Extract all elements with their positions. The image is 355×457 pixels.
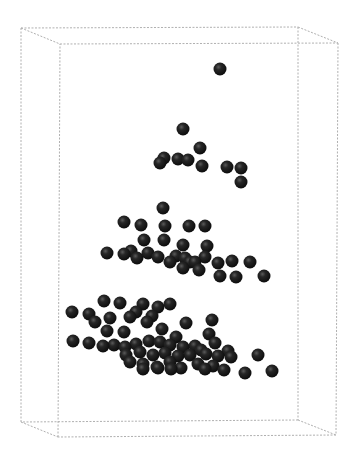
- data-point-sphere: [66, 306, 79, 319]
- data-point-sphere: [244, 256, 257, 269]
- data-point-sphere: [135, 219, 148, 232]
- data-point-sphere: [177, 239, 190, 252]
- data-point-sphere: [108, 339, 121, 352]
- data-point-sphere: [226, 255, 239, 268]
- data-point-sphere: [230, 271, 243, 284]
- box-edge-depth: [21, 422, 58, 437]
- box-edge-front: [58, 435, 336, 437]
- data-point-sphere: [221, 161, 234, 174]
- wireframe-box: [21, 27, 338, 437]
- data-point-sphere: [154, 157, 167, 170]
- data-point-sphere: [143, 335, 156, 348]
- data-point-sphere: [147, 349, 160, 362]
- data-point-sphere: [152, 362, 165, 375]
- box-edge-back: [21, 420, 298, 422]
- data-point-sphere: [239, 367, 252, 380]
- data-point-sphere: [252, 349, 265, 362]
- data-point-sphere: [177, 123, 190, 136]
- data-point-sphere: [258, 270, 271, 283]
- box-edge-back: [21, 27, 298, 28]
- data-point-sphere: [101, 247, 114, 260]
- data-point-sphere: [97, 340, 110, 353]
- data-point-sphere: [118, 326, 131, 339]
- data-point-sphere: [104, 312, 117, 325]
- box-edge-front: [60, 43, 338, 44]
- data-point-sphere: [201, 240, 214, 253]
- box-edge-depth: [298, 27, 338, 43]
- data-point-sphere: [218, 364, 231, 377]
- data-point-sphere: [214, 63, 227, 76]
- data-point-sphere: [101, 325, 114, 338]
- scatter-3d-plot[interactable]: [0, 0, 355, 457]
- box-edge-depth: [21, 28, 60, 44]
- data-point-sphere: [177, 262, 190, 275]
- data-point-sphere: [182, 154, 195, 167]
- data-point-sphere: [67, 335, 80, 348]
- data-point-sphere: [225, 351, 238, 364]
- data-point-sphere: [158, 234, 171, 247]
- data-point-sphere: [193, 264, 206, 277]
- data-point-sphere: [214, 270, 227, 283]
- box-edge-front: [58, 44, 60, 437]
- data-point-sphere: [183, 220, 196, 233]
- data-point-sphere: [164, 298, 177, 311]
- data-point-sphere: [206, 314, 219, 327]
- data-point-sphere: [194, 142, 207, 155]
- data-point-sphere: [156, 323, 169, 336]
- data-point-sphere: [165, 363, 178, 376]
- box-edge-depth: [298, 420, 336, 435]
- data-point-sphere: [199, 363, 212, 376]
- data-point-sphere: [124, 356, 137, 369]
- data-point-sphere: [98, 295, 111, 308]
- data-point-sphere: [235, 162, 248, 175]
- data-point-sphere: [89, 316, 102, 329]
- data-point-sphere: [266, 365, 279, 378]
- data-point-sphere: [209, 337, 222, 350]
- data-point-sphere: [235, 176, 248, 189]
- data-point-sphere: [118, 248, 131, 261]
- data-point-sphere: [157, 202, 170, 215]
- data-point-sphere: [141, 316, 154, 329]
- data-point-sphere: [83, 337, 96, 350]
- data-point-sphere: [124, 311, 137, 324]
- data-point-sphere: [131, 252, 144, 265]
- data-point-sphere: [199, 220, 212, 233]
- data-point-sphere: [196, 160, 209, 173]
- data-point-sphere: [164, 256, 177, 269]
- data-points: [66, 63, 279, 380]
- data-point-sphere: [152, 251, 165, 264]
- data-point-sphere: [138, 234, 151, 247]
- data-point-sphere: [137, 363, 150, 376]
- data-point-sphere: [159, 220, 172, 233]
- data-point-sphere: [180, 317, 193, 330]
- data-point-sphere: [212, 257, 225, 270]
- data-point-sphere: [114, 297, 127, 310]
- data-point-sphere: [134, 346, 147, 359]
- data-point-sphere: [118, 216, 131, 229]
- box-edge-front: [336, 43, 338, 435]
